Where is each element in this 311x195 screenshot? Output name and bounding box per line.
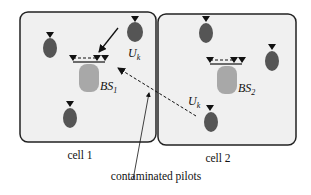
bs2-base-station-icon xyxy=(217,66,237,94)
cell-2-label: cell 2 xyxy=(205,152,230,164)
cell-1-label: cell 1 xyxy=(67,149,92,161)
bs1-base-station-icon xyxy=(79,64,99,92)
contaminated-pilots-label: contaminated pilots xyxy=(111,170,202,183)
pilot-contamination-diagram: BS1 Uk BS2 Uk cell 1 cell 2 contaminated… xyxy=(0,0,311,195)
